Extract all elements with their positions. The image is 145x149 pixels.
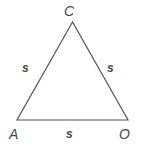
side-label-ao: s [66, 128, 73, 140]
side-label-ac: s [22, 62, 29, 74]
vertex-label-a: A [9, 127, 18, 141]
geometry-figure: C A O s s s [0, 0, 145, 149]
vertex-label-o: O [119, 127, 130, 141]
vertex-label-c: C [64, 4, 74, 18]
side-label-co: s [107, 62, 114, 74]
